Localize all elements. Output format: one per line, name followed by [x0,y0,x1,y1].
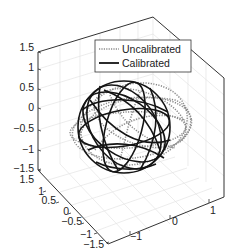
x-tick-label: −1 [130,230,142,242]
y-tick-label: 1.5 [19,173,34,185]
z-tick-label: 1 [28,61,34,73]
chart-3d-plot: 1.5 1 0.5 0 −0.5 −1 −1.5 1.5 1 0.5 0 −0.… [0,0,239,252]
z-tick-label: 0 [28,101,34,113]
z-tick-label: 1.5 [19,41,34,53]
x-tick-label: 1 [210,204,216,216]
legend-uncalibrated-label: Uncalibrated [122,43,181,55]
z-tick-label: 0.5 [19,81,34,93]
z-tick-label: −1 [22,143,34,155]
y-tick-label: 0.5 [41,194,56,206]
z-tick-label: −0.5 [13,122,34,134]
series-calibrated [70,71,177,183]
y-tick-label: −0.5 [61,215,82,227]
legend: Uncalibrated Calibrated [95,40,191,72]
z-axis: 1.5 1 0.5 0 −0.5 −1 −1.5 [13,41,41,174]
x-tick-label: 0 [172,215,178,227]
legend-calibrated-label: Calibrated [122,57,170,69]
y-tick-label: −1.5 [83,238,104,250]
